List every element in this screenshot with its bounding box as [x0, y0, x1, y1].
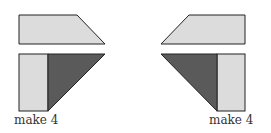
right-label: make 4: [209, 113, 254, 127]
right-dark-triangle: [161, 54, 217, 111]
right-unit: make 4: [161, 15, 254, 127]
left-unit: make 4: [14, 15, 105, 127]
left-label: make 4: [14, 113, 59, 127]
right-rectangle: [217, 54, 245, 111]
right-trapezoid: [161, 15, 245, 44]
left-dark-triangle: [48, 54, 105, 111]
left-rectangle: [19, 54, 48, 111]
quilt-diagram: make 4 make 4: [0, 0, 271, 133]
left-trapezoid: [19, 15, 105, 44]
